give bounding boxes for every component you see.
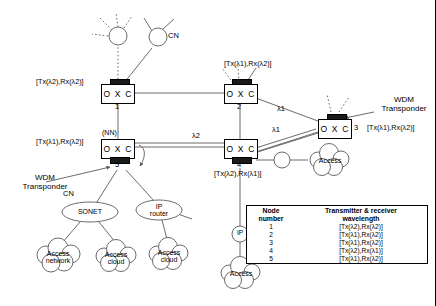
table-cell-wavelength: [Tx(λ2),Rx(λ2)] <box>295 223 428 231</box>
table-header-row: Node number Transmitter & receiver wavel… <box>247 206 428 223</box>
table-row: 1 [Tx(λ2),Rx(λ2)] <box>247 223 428 231</box>
transponder-oxc4 <box>232 157 252 164</box>
table-cell-node-number: 1 <box>247 223 296 231</box>
table-row: 2 [Tx(λ1),Rx(λ2)] <box>247 231 428 239</box>
header-wavelength: wavelength <box>342 215 379 222</box>
transponder-oxc5 <box>110 157 130 164</box>
oxc2-txrx-label: [Tx(λ1),Rx(λ2)] <box>224 60 272 68</box>
cn-link-oxc3 <box>327 94 349 112</box>
link-oxc2-oxc3 <box>253 97 318 121</box>
oxc5-txrx-label: [Tx(λ1),Rx(λ2)] <box>36 138 84 146</box>
oxc-node-5[interactable]: O X C <box>101 139 135 159</box>
oxc3-txrx-label: [Tx(λ1),Rx(λ2)] <box>367 124 415 132</box>
sonet-label: SONET <box>62 208 118 215</box>
header-number: number <box>259 215 284 222</box>
network-diagram-canvas: O X C 1 [Tx(λ2),Rx(λ2)] O X C 2 [Tx(λ1),… <box>0 0 436 306</box>
iprouter-label: IP router <box>137 203 181 218</box>
table-cell-wavelength: [Tx(λ1),Rx(λ2)] <box>295 231 428 239</box>
table-row: 4 [Tx(λ2),Rx(λ1)] <box>247 247 428 255</box>
access-network-cloud-label: Access network <box>36 250 80 265</box>
wavelength-table: Node number Transmitter & receiver wavel… <box>246 205 428 264</box>
table-cell-wavelength: [Tx(λ1),Rx(λ2)] <box>295 239 428 247</box>
oxc-node-1[interactable]: O X C <box>101 84 135 104</box>
oxc-node-2[interactable]: O X C <box>224 84 258 104</box>
table-header-wavelength: Transmitter & receiver wavelength <box>295 206 428 223</box>
header-transmitter-receiver: Transmitter & receiver <box>325 207 397 214</box>
table-cell-node-number: 3 <box>247 239 296 247</box>
link-oxc5-sonet <box>95 170 117 205</box>
wdm-transponder-right-label: WDM Transponder <box>372 96 436 114</box>
cn-top-label: CN <box>168 32 179 40</box>
link-sonet-accessnetwork <box>62 222 80 243</box>
header-node: Node <box>263 207 280 214</box>
lambda1-upper-label: λ1 <box>277 105 285 113</box>
table-row: 3 [Tx(λ1),Rx(λ2)] <box>247 239 428 247</box>
cn-link-oxc1-solid <box>124 48 152 83</box>
link-oxc5-iprouter <box>126 170 155 202</box>
lambda2-label: λ2 <box>192 132 200 140</box>
table-cell-node-number: 5 <box>247 255 296 264</box>
access-cloud-1-label: Access cloud <box>94 251 138 266</box>
plain-circle-oxc4 <box>274 152 290 168</box>
oxc-node-3[interactable]: O X C <box>318 119 352 139</box>
oxc-number-2: 2 <box>237 103 241 111</box>
table-cell-wavelength: [Tx(λ1),Rx(λ2)] <box>295 255 428 264</box>
oxc-node-4[interactable]: O X C <box>224 139 258 159</box>
access-right-cloud-label: Access <box>308 157 352 164</box>
cn-top-right-circle <box>149 28 167 46</box>
cn-top-left-circle <box>109 27 127 45</box>
table-row: 5 [Tx(λ1),Rx(λ2)] <box>247 255 428 264</box>
lambda2-drop-arrow <box>139 145 144 166</box>
oxc-number-3: 3 <box>354 124 358 132</box>
oxc1-txrx-label: [Tx(λ2),Rx(λ2)] <box>36 78 84 86</box>
wdm-transponder-left-label: WDM Transponder <box>6 174 84 192</box>
nn-label: (NN) <box>102 129 117 137</box>
oxc-number-1: 1 <box>115 103 119 111</box>
oxc-number-4: 4 <box>237 161 241 169</box>
oxc4-txrx-label: [Tx(λ2),Rx(λ1)] <box>214 170 262 178</box>
table-cell-wavelength: [Tx(λ2),Rx(λ1)] <box>295 247 428 255</box>
table-header-node-number: Node number <box>247 206 296 223</box>
lambda1-label: λ1 <box>272 126 280 134</box>
table-cell-node-number: 2 <box>247 231 296 239</box>
wdm-transponder-right-pointer <box>345 112 374 118</box>
table-cell-node-number: 4 <box>247 247 296 255</box>
access-bottom-cloud-label: Access <box>219 270 263 277</box>
oxc-number-5: 5 <box>115 161 119 169</box>
access-cloud-2-label: Access cloud <box>147 249 191 264</box>
